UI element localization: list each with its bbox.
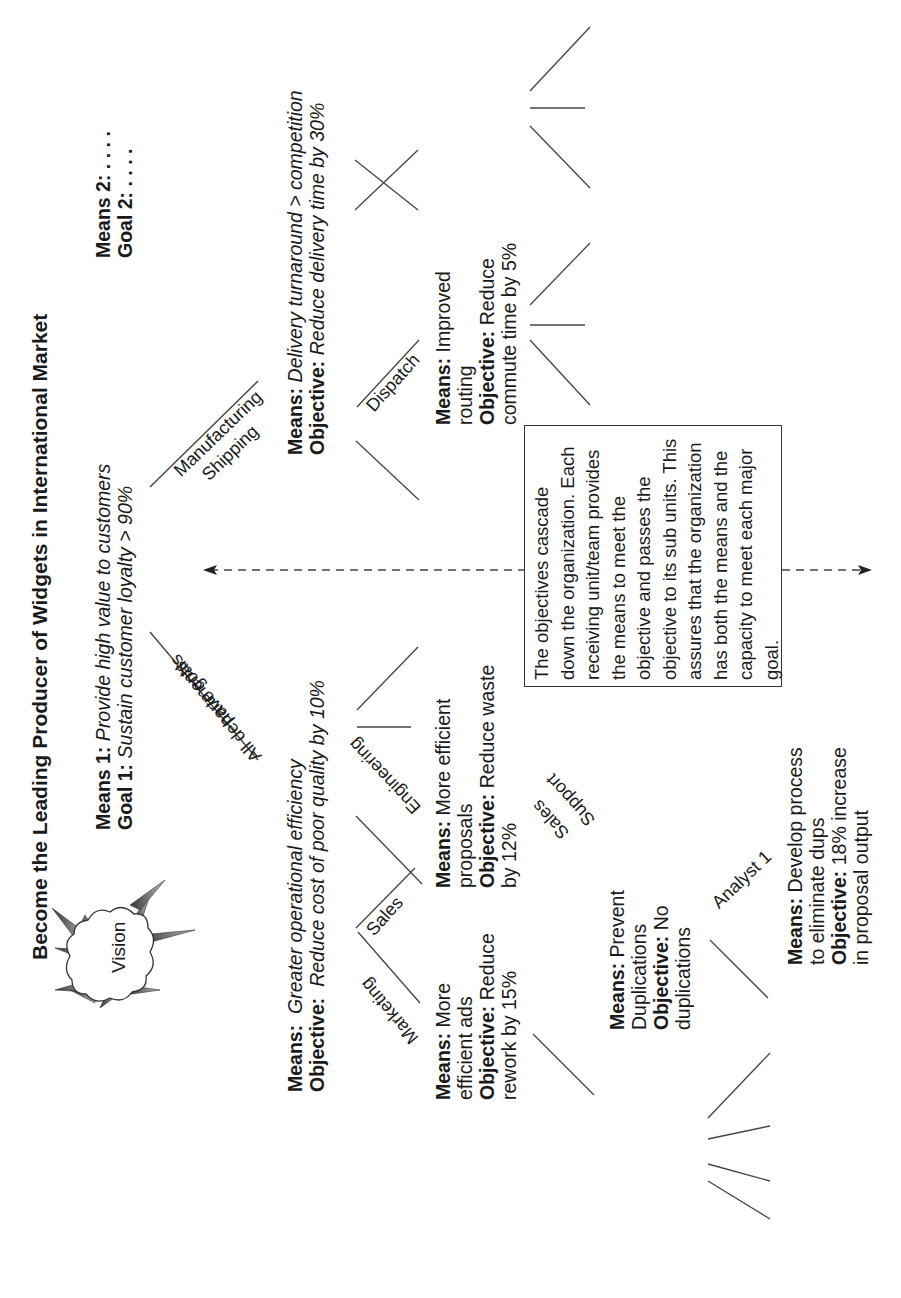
goal1-label: Goal 1: (114, 764, 136, 830)
means1-label: Means 1: (92, 747, 114, 830)
goal1-text: Sustain customer loyalty > 90% (114, 486, 136, 759)
vision-label: Vision (108, 922, 130, 973)
support-means-objective: Means: Prevent Duplications Objective: N… (606, 890, 694, 1030)
dispatch-means-objective: Means: Improved routing Objective: Reduc… (432, 243, 520, 425)
marketing-means-objective: Means: More efficient ads Objective: Red… (432, 933, 520, 1100)
goal2-label: Goal 2: (114, 192, 136, 258)
analyst-means-objective: Means: Develop process to eliminate dups… (784, 747, 872, 965)
means2-text: . . . . (92, 131, 114, 169)
delivery-turnaround-block: Means: Delivery turnaround > competition… (284, 90, 328, 455)
sales-means-objective: Means: More efficient proposals Objectiv… (432, 665, 520, 888)
means1-text: Provide high value to customers (92, 464, 114, 741)
means1-goal1-block: Means 1: Provide high value to customers… (92, 464, 136, 830)
means2-goal2-block: Means 2: . . . . Goal 2: . . . . (92, 131, 136, 258)
page-title: Become the Leading Producer of Widgets i… (28, 314, 52, 960)
means2-label: Means 2: (92, 175, 114, 258)
operational-efficiency-block: Means: Greater operational efficiency Ob… (284, 680, 328, 1092)
goal2-text: . . . . (114, 149, 136, 187)
cascade-explanation-text: The objectives cascade down the organiza… (525, 432, 777, 686)
cascade-explanation-box: The objectives cascade down the organiza… (524, 425, 782, 687)
